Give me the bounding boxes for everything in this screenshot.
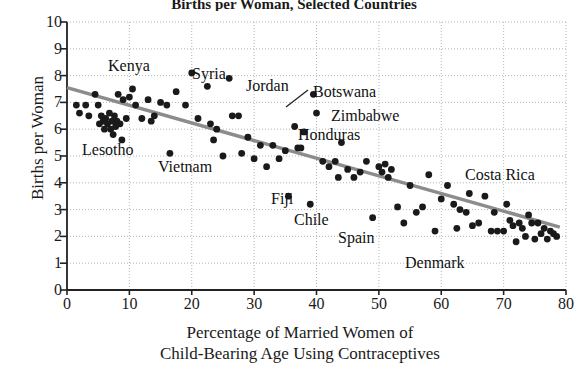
annotation-denmark: Denmark — [405, 255, 465, 271]
annotation-vietnam: Vietnam — [158, 159, 212, 175]
annotation-fiji: Fiji — [271, 191, 293, 207]
annotation-costa-rica: Costa Rica — [465, 167, 535, 183]
annotation-botswana: Botswana — [313, 84, 376, 100]
annotation-chile: Chile — [294, 212, 329, 228]
trendline — [67, 88, 560, 227]
annotation-jordan: Jordan — [246, 78, 289, 94]
annotation-syria: Syria — [192, 66, 226, 82]
annotation-spain: Spain — [338, 230, 374, 246]
plot-canvas — [0, 0, 588, 374]
annotation-zimbabwe: Zimbabwe — [331, 108, 399, 124]
chart-figure: Births per Woman, Selected Countries Bir… — [0, 0, 588, 374]
annotation-leader-lines — [286, 90, 308, 107]
annotation-lesotho: Lesotho — [82, 142, 134, 158]
annotation-kenya: Kenya — [108, 58, 150, 74]
annotation-honduras: Honduras — [298, 127, 360, 143]
